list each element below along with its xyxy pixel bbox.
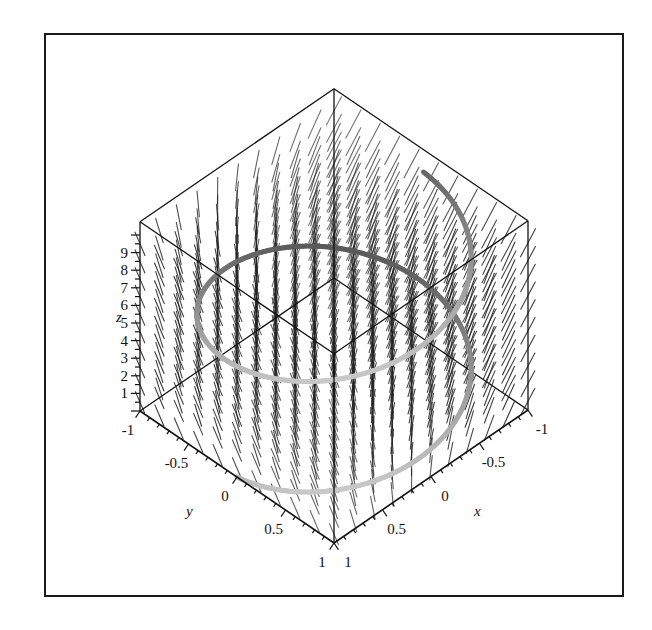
y-tick-label: -0.5 xyxy=(165,455,189,471)
y-tick-label: 0.5 xyxy=(264,521,283,537)
3d-plot[interactable]: 123456789 -1-0.500.51 -1-0.500.51 z y x xyxy=(0,0,652,630)
y-axis-label: y xyxy=(184,503,193,519)
z-tick-label: 4 xyxy=(121,333,129,349)
x-tick-label: -0.5 xyxy=(482,454,506,470)
x-tick-label: 0.5 xyxy=(387,521,406,537)
y-tick-label: -1 xyxy=(122,422,135,438)
x-tick-label: 0 xyxy=(441,488,449,504)
y-tick-label: 0 xyxy=(221,488,229,504)
x-axis-tick-labels: -1-0.500.51 xyxy=(344,421,548,570)
z-tick-label: 7 xyxy=(121,280,129,296)
x-axis-label: x xyxy=(473,503,481,519)
z-tick-label: 1 xyxy=(121,385,129,401)
z-tick-label: 8 xyxy=(121,262,129,278)
x-tick-label: -1 xyxy=(536,421,549,437)
z-tick-label: 3 xyxy=(121,350,129,366)
x-tick-label: 1 xyxy=(344,554,352,570)
z-tick-label: 9 xyxy=(121,245,129,261)
z-tick-label: 2 xyxy=(121,368,129,384)
y-tick-label: 1 xyxy=(318,554,326,570)
z-axis-label: z xyxy=(115,309,122,325)
